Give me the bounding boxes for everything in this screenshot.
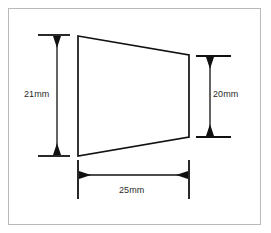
technical-drawing-page: 21mm 20mm 25mm (0, 0, 271, 233)
arrowhead-left-top (53, 36, 61, 48)
dimension-label-bottom-width: 25mm (119, 185, 144, 195)
arrowhead-bottom-right (176, 171, 188, 179)
dimension-label-left-height: 21mm (24, 89, 49, 99)
arrowhead-left-bottom (53, 143, 61, 155)
drawing-canvas (0, 0, 271, 233)
trapezoid (78, 36, 189, 156)
dimension-label-right-height: 20mm (213, 89, 238, 99)
arrowhead-right-top (206, 57, 214, 69)
arrowhead-right-bottom (206, 124, 214, 136)
arrowhead-bottom-left (79, 171, 91, 179)
trapezoid-outline (78, 36, 189, 156)
